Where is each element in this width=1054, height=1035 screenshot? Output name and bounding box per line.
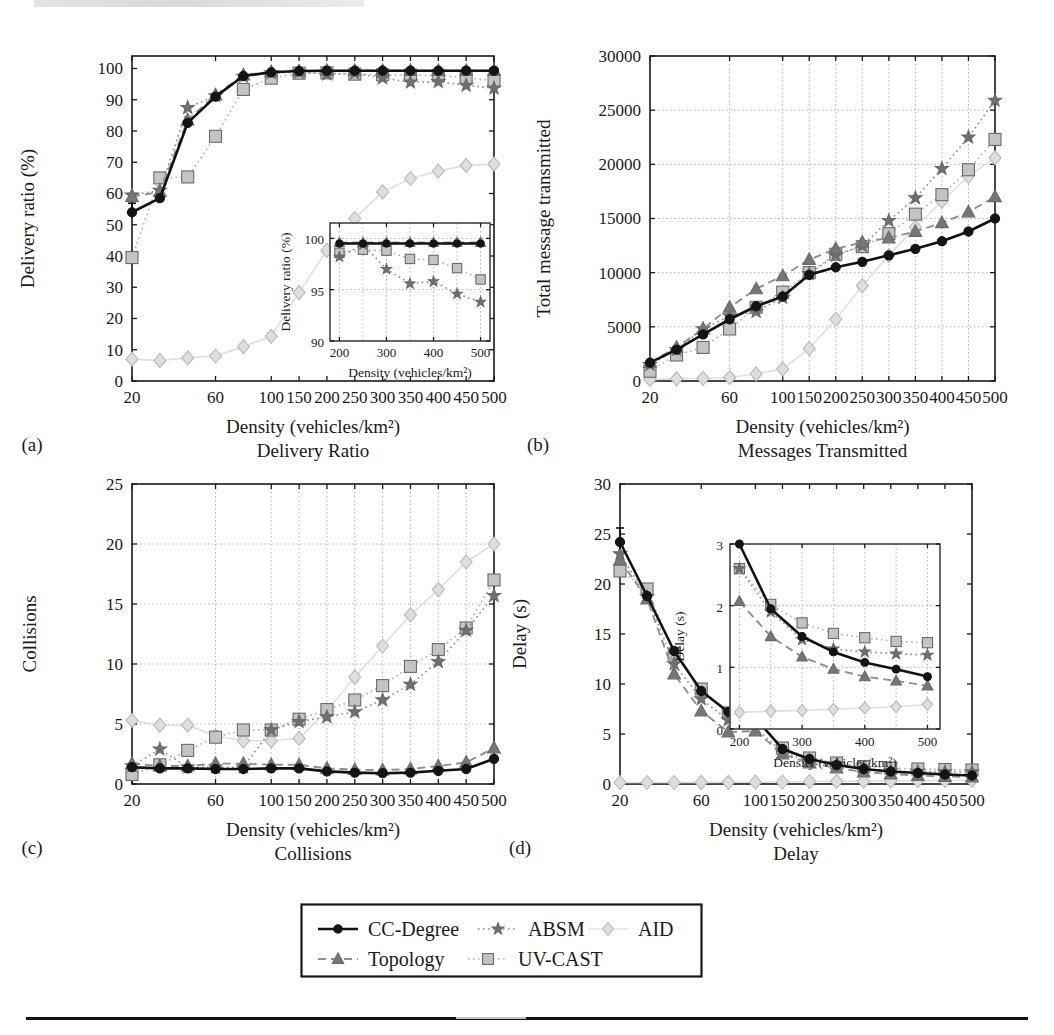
svg-text:450: 450	[932, 791, 958, 810]
panel-b-xlabel: Density (vehicles/km²)	[735, 416, 909, 438]
svg-text:20: 20	[642, 388, 659, 407]
svg-text:25: 25	[594, 525, 611, 544]
svg-text:95: 95	[311, 284, 324, 299]
legend-label: CC-Degree	[368, 918, 459, 941]
panel-a-caption: Delivery Ratio	[257, 440, 369, 461]
svg-text:15: 15	[106, 595, 123, 614]
svg-text:1: 1	[717, 661, 724, 676]
svg-text:90: 90	[311, 335, 324, 350]
svg-text:20: 20	[612, 791, 629, 810]
svg-text:10: 10	[106, 341, 123, 360]
panel-d-caption: Delay	[773, 843, 819, 864]
svg-text:100: 100	[305, 232, 325, 247]
panel-b-messages-transmitted: 0500010000150002000025000300002060100150…	[520, 18, 1054, 468]
svg-text:30: 30	[594, 475, 611, 494]
svg-text:200: 200	[797, 791, 823, 810]
svg-text:150: 150	[770, 791, 796, 810]
svg-text:25000: 25000	[599, 101, 642, 120]
svg-text:400: 400	[929, 388, 955, 407]
panel-d-inset-xlabel: Density (vehicles/km²)	[773, 755, 897, 770]
panel-c-ylabel: Collisions	[19, 595, 40, 672]
panel-a-inset-xlabel: Density (vehicles/km²)	[348, 365, 472, 380]
svg-text:20: 20	[594, 575, 611, 594]
page-top-artifact	[34, 0, 364, 7]
svg-text:350: 350	[878, 791, 904, 810]
svg-text:20: 20	[124, 791, 141, 810]
svg-text:400: 400	[905, 791, 931, 810]
svg-text:5000: 5000	[607, 318, 641, 337]
svg-text:300: 300	[377, 345, 397, 360]
svg-text:250: 250	[342, 388, 368, 407]
svg-text:0: 0	[603, 775, 612, 794]
panel-b-caption: Messages Transmitted	[738, 440, 908, 461]
svg-text:30000: 30000	[599, 47, 642, 66]
svg-text:60: 60	[693, 791, 710, 810]
svg-text:300: 300	[370, 388, 396, 407]
svg-text:100: 100	[258, 791, 284, 810]
svg-text:100: 100	[743, 791, 769, 810]
svg-text:0: 0	[717, 723, 724, 738]
panel-d-delay: 0510152025302060100150200250300350400450…	[430, 462, 1054, 892]
svg-text:60: 60	[106, 184, 123, 203]
svg-text:60: 60	[207, 388, 224, 407]
svg-text:15: 15	[594, 625, 611, 644]
svg-text:100: 100	[770, 388, 796, 407]
legend-label: ABSM	[528, 918, 585, 940]
panel-d-tag: (d)	[509, 837, 531, 859]
svg-text:150: 150	[286, 791, 312, 810]
svg-text:350: 350	[398, 388, 424, 407]
panel-a-xlabel: Density (vehicles/km²)	[226, 416, 400, 438]
svg-text:0: 0	[633, 372, 642, 391]
svg-text:100: 100	[98, 59, 124, 78]
svg-text:500: 500	[918, 734, 938, 749]
svg-text:60: 60	[721, 388, 738, 407]
svg-text:30: 30	[106, 278, 123, 297]
svg-text:450: 450	[453, 388, 479, 407]
panel-a-tag: (a)	[21, 434, 42, 456]
legend-label: Topology	[368, 948, 444, 971]
svg-text:200: 200	[314, 388, 340, 407]
svg-text:400: 400	[424, 345, 444, 360]
panel-b-ylabel: Total message transmitted	[533, 119, 554, 318]
panel-b-tag: (b)	[527, 434, 549, 456]
svg-text:200: 200	[314, 791, 340, 810]
legend-label: UV-CAST	[518, 948, 603, 970]
svg-text:300: 300	[792, 734, 812, 749]
svg-text:0: 0	[115, 775, 124, 794]
svg-text:500: 500	[959, 791, 985, 810]
svg-text:200: 200	[730, 734, 750, 749]
svg-text:350: 350	[398, 791, 424, 810]
series-legend: CC-DegreeABSMAIDTopologyUV-CAST	[300, 903, 760, 983]
svg-text:40: 40	[106, 247, 123, 266]
panel-a-delivery-ratio: 0102030405060708090100206010015020025030…	[0, 18, 540, 468]
svg-text:500: 500	[481, 388, 507, 407]
svg-text:10000: 10000	[599, 264, 642, 283]
panel-d-xlabel: Density (vehicles/km²)	[709, 819, 883, 841]
panel-c-caption: Collisions	[274, 843, 351, 864]
svg-text:400: 400	[855, 734, 875, 749]
svg-text:50: 50	[106, 216, 123, 235]
svg-text:300: 300	[851, 791, 877, 810]
svg-text:150: 150	[796, 388, 822, 407]
svg-text:80: 80	[106, 122, 123, 141]
panel-d-inset-ylabel: Delay (s)	[672, 612, 687, 662]
svg-text:20000: 20000	[599, 155, 642, 174]
svg-text:300: 300	[370, 791, 396, 810]
svg-text:500: 500	[982, 388, 1008, 407]
panel-a-ylabel: Delivery ratio (%)	[17, 149, 39, 288]
svg-text:500: 500	[471, 345, 491, 360]
page-bottom-rule	[26, 1017, 1028, 1020]
panel-c-tag: (c)	[21, 837, 42, 859]
svg-text:250: 250	[342, 791, 368, 810]
svg-text:5: 5	[603, 725, 612, 744]
svg-text:300: 300	[876, 388, 902, 407]
svg-text:150: 150	[286, 388, 312, 407]
svg-text:60: 60	[207, 791, 224, 810]
svg-text:0: 0	[115, 372, 124, 391]
svg-text:200: 200	[330, 345, 350, 360]
svg-text:10: 10	[594, 675, 611, 694]
svg-text:250: 250	[850, 388, 876, 407]
svg-text:25: 25	[106, 475, 123, 494]
svg-text:250: 250	[824, 791, 850, 810]
svg-text:10: 10	[106, 655, 123, 674]
